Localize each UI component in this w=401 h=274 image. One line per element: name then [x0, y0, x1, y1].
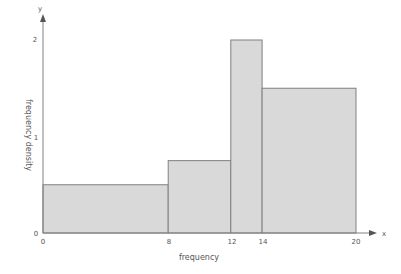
histogram-bar-14-20 [262, 88, 356, 233]
y-axis-symbol: y [38, 5, 42, 13]
x-axis-title: frequency [179, 253, 219, 262]
y-tick-0: 0 [34, 230, 38, 238]
x-tick-20: 20 [352, 238, 361, 246]
x-tick-8: 8 [167, 238, 171, 246]
x-axis-symbol: x [382, 230, 386, 238]
y-axis-title: frequency density [24, 99, 33, 171]
histogram-chart: y x 2 1 0 0 8 12 14 20 frequency frequen… [0, 0, 401, 274]
x-tick-14: 14 [259, 238, 268, 246]
histogram-bar-0-8 [43, 185, 168, 233]
y-axis-arrow-icon [40, 14, 46, 22]
histogram-bar-8-12 [168, 161, 231, 233]
histogram-bars [43, 40, 356, 233]
y-tick-1: 1 [34, 134, 38, 142]
x-axis-arrow-icon [369, 230, 377, 236]
histogram-bar-12-14 [231, 40, 262, 233]
x-tick-0: 0 [41, 238, 45, 246]
x-tick-12: 12 [228, 238, 237, 246]
y-tick-2: 2 [33, 36, 37, 44]
